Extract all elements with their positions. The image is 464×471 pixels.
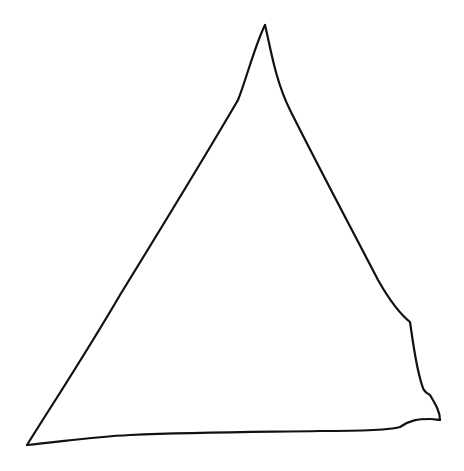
paper-background — [0, 0, 464, 471]
triangle-drawing — [0, 0, 464, 471]
